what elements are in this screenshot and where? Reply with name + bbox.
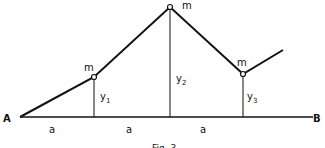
label-B: B bbox=[313, 113, 321, 124]
label-mass2: m bbox=[182, 0, 192, 11]
label-A: A bbox=[3, 113, 11, 124]
mass1-point-icon bbox=[92, 75, 97, 80]
label-spacing2: a bbox=[126, 124, 132, 135]
string-masses-diagram: A B m m m y1 y2 y3 a a a Fig. 3 bbox=[0, 0, 325, 148]
label-mass3: m bbox=[237, 57, 247, 68]
label-y2: y2 bbox=[176, 73, 186, 87]
label-spacing3: a bbox=[200, 124, 206, 135]
label-spacing1: a bbox=[49, 124, 55, 135]
mass3-point-icon bbox=[241, 72, 246, 77]
label-y1: y1 bbox=[100, 91, 110, 105]
figure-caption: Fig. 3 bbox=[152, 143, 176, 148]
label-mass1: m bbox=[84, 62, 94, 73]
mass2-point-icon bbox=[168, 5, 173, 10]
label-y3: y3 bbox=[247, 91, 257, 105]
